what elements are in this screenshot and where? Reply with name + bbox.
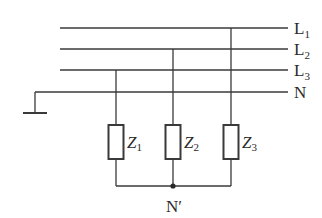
impedance-z3: [224, 125, 239, 159]
ground-icon: [23, 92, 47, 113]
neutral-point-dot: [170, 183, 175, 188]
label-z3: Z3: [242, 133, 257, 153]
impedance-z1: [109, 125, 124, 159]
label-z2: Z2: [184, 133, 199, 153]
label-l3: L3: [294, 61, 310, 82]
circuit-diagram: L1 L2 L3 N Z1 Z2 Z3 N′: [0, 0, 322, 218]
impedance-z2: [166, 125, 181, 159]
label-l2: L2: [294, 40, 310, 61]
label-z1: Z1: [127, 133, 142, 153]
label-n: N: [294, 83, 306, 102]
label-neutral-point: N′: [166, 197, 182, 216]
label-l1: L1: [294, 19, 310, 40]
